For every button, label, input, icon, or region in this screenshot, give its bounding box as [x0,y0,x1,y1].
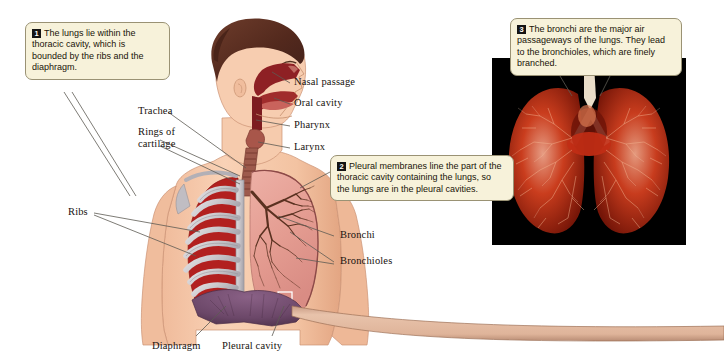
callout-badge-3: 3 [517,25,526,34]
callout-text-1: The lungs lie within the thoracic cavity… [32,28,144,72]
label-trachea: Trachea [138,105,172,116]
label-bronchioles: Bronchioles [340,255,392,266]
callout-box-2: 2Pleural membranes line the part of the … [330,155,514,201]
label-pharynx: Pharynx [294,119,330,130]
label-pleural-cavity: Pleural cavity [222,340,282,351]
callout-box-1: 1The lungs lie within the thoracic cavit… [25,22,170,80]
label-ribs: Ribs [68,206,88,217]
callout-text-3: The bronchi are the major air passageway… [517,24,665,68]
label-diaphragm: Diaphragm [152,340,201,351]
label-oral-cavity: Oral cavity [294,97,343,108]
label-nasal-passage: Nasal passage [294,76,355,87]
label-rings-of-cartilage: Rings of cartilage [138,126,188,150]
label-larynx: Larynx [294,141,325,152]
callout-box-3: 3The bronchi are the major air passagewa… [510,18,682,76]
callout-text-2: Pleural membranes line the part of the t… [337,161,502,194]
label-bronchi: Bronchi [340,229,375,240]
callout-badge-2: 2 [337,162,346,171]
callout-badge-1: 1 [32,29,41,38]
respiratory-system-figure: 1The lungs lie within the thoracic cavit… [0,0,724,361]
